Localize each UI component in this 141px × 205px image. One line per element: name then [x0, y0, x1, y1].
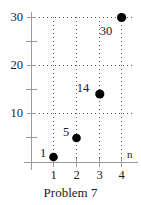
x-axis-label-4: 4 [114, 169, 130, 182]
point-value-label-2: 5 [56, 126, 76, 139]
point-value-label-4: 30 [96, 25, 116, 38]
y-axis-label-10: 10 [1, 107, 23, 120]
data-point-4 [117, 13, 126, 22]
point-value-label-1: 1 [33, 147, 53, 160]
x-axis-name: n [127, 149, 133, 160]
data-point-3 [95, 89, 104, 98]
x-axis-label-2: 2 [69, 169, 85, 182]
y-axis-label-20: 20 [1, 59, 23, 72]
problem-7-figure: 30 20 10 1 2 3 4 n 1 5 14 30 Problem 7 [0, 0, 141, 205]
point-value-label-3: 14 [73, 82, 93, 95]
y-axis-label-30: 30 [1, 11, 23, 24]
figure-caption: Problem 7 [0, 185, 141, 201]
x-axis-label-1: 1 [46, 169, 62, 182]
x-axis-label-3: 3 [92, 169, 108, 182]
